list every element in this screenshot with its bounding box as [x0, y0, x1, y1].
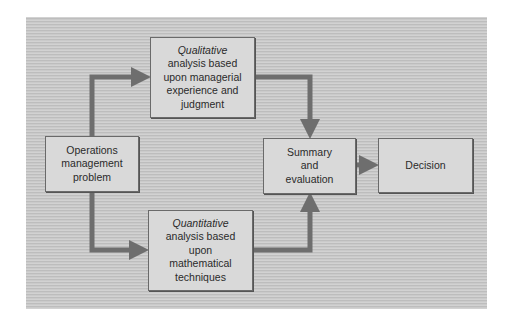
node-operations-problem: Operations management problem	[45, 136, 139, 192]
node-text-line: techniques	[175, 271, 226, 285]
node-text-line: judgment	[181, 98, 224, 112]
node-text-line: Operations	[66, 144, 117, 158]
node-summary-evaluation: Summary and evaluation	[263, 138, 356, 194]
node-text-line: management	[61, 157, 122, 171]
node-text-line: upon managerial	[163, 71, 241, 85]
node-emphasis: Quantitative	[172, 217, 228, 231]
node-text-line: upon	[189, 244, 212, 258]
node-text-line: analysis based	[166, 230, 235, 244]
arrow-qualitative-to-summary	[255, 77, 310, 130]
node-text-line: Summary	[287, 146, 332, 160]
node-text-line: and	[301, 159, 319, 173]
node-text-line: evaluation	[286, 173, 334, 187]
arrow-problem-to-qualitative	[92, 77, 142, 136]
arrow-problem-to-quantitative	[92, 191, 140, 250]
node-text-line: analysis based	[168, 57, 237, 71]
node-quantitative-analysis: Quantitative analysis based upon mathema…	[148, 210, 253, 291]
node-decision: Decision	[378, 138, 473, 193]
node-text-line: mathematical	[169, 257, 231, 271]
node-emphasis: Qualitative	[178, 44, 228, 58]
node-text-line: experience and	[167, 84, 239, 98]
node-qualitative-analysis: Qualitative analysis based upon manageri…	[150, 37, 255, 118]
node-text-line: problem	[73, 171, 111, 185]
node-text-line: Decision	[405, 159, 445, 173]
arrow-quantitative-to-summary	[253, 201, 310, 250]
